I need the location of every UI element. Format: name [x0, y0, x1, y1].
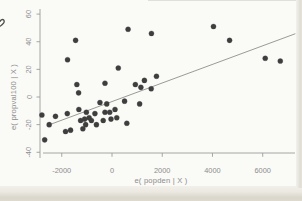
data-point: [149, 31, 154, 36]
data-point: [47, 122, 52, 127]
y-tick-label: 40: [25, 38, 34, 46]
data-point: [137, 101, 142, 106]
data-point: [122, 99, 127, 104]
y-axis-label: e( propval100 | X ): [9, 64, 18, 130]
data-point: [63, 129, 68, 134]
x-tick-label: 6000: [254, 166, 270, 175]
x-tick-label: 2000: [154, 166, 170, 175]
data-point: [53, 114, 58, 119]
data-point: [73, 38, 78, 43]
data-point: [133, 82, 138, 87]
data-point: [76, 90, 81, 95]
y-tick-label: 20: [25, 65, 34, 73]
page-bottom-margin: [0, 186, 302, 201]
scatter-plot: -20000200040006000-40-200204060 e( propv…: [0, 0, 302, 188]
y-tick-label: 0: [25, 95, 34, 99]
data-point: [94, 122, 99, 127]
data-point: [263, 56, 268, 61]
data-point: [74, 82, 79, 87]
data-point: [278, 59, 283, 64]
data-point: [39, 112, 44, 117]
data-point: [116, 65, 121, 70]
data-point: [124, 121, 129, 126]
data-point: [97, 100, 102, 105]
data-point: [102, 110, 107, 115]
data-point: [142, 78, 147, 83]
data-point: [102, 81, 107, 86]
x-tick-label: 4000: [204, 166, 220, 175]
x-axis-label: e( popden | X ): [134, 176, 187, 185]
data-point: [78, 118, 83, 123]
x-tick-label: 0: [110, 166, 114, 175]
data-point: [211, 24, 216, 29]
data-point: [114, 115, 119, 120]
data-point: [92, 111, 97, 116]
data-point: [104, 101, 109, 106]
x-tick-label: -2000: [52, 166, 71, 175]
data-point: [107, 110, 112, 115]
axes: -20000200040006000-40-200204060: [25, 9, 296, 175]
data-point: [154, 74, 159, 79]
data-point: [65, 111, 70, 116]
data-point: [149, 86, 154, 91]
data-point: [101, 118, 106, 123]
data-point: [112, 107, 117, 112]
data-point: [80, 126, 85, 131]
y-tick-label: 60: [25, 10, 34, 18]
data-point: [76, 107, 81, 112]
page-right-edge: [296, 0, 302, 188]
data-point: [138, 85, 143, 90]
data-point: [42, 137, 47, 142]
scanned-figure-page: -20000200040006000-40-200204060 e( propv…: [0, 0, 302, 201]
data-point: [108, 117, 113, 122]
data-point: [227, 38, 232, 43]
y-tick-label: -20: [25, 119, 34, 130]
data-point: [126, 27, 131, 32]
data-point: [68, 128, 73, 133]
data-point: [84, 110, 89, 115]
y-tick-label: -40: [25, 147, 34, 158]
data-point: [87, 115, 92, 120]
data-point: [65, 57, 70, 62]
